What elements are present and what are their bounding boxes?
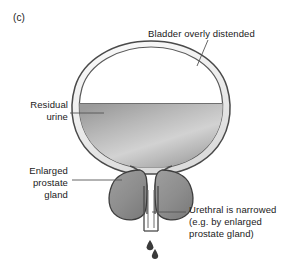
label-bladder-overly-distended: Bladder overly distended <box>148 28 255 40</box>
prostate-lobe-left <box>109 170 147 220</box>
label-urethral-is-narrowed: Urethral is narrowed (e.g. by enlarged p… <box>189 204 301 241</box>
label-residual-urine: Residual urine <box>8 99 68 123</box>
label-enlarged-prostate-gland: Enlarged prostate gland <box>4 165 68 202</box>
urine-drip-upper <box>147 240 154 250</box>
residual-urine-fill <box>70 103 235 175</box>
panel-label: (c) <box>13 12 25 24</box>
figure-panel-c: (c) Bladder overly distended Residual ur… <box>0 0 302 267</box>
urine-drip-lower <box>152 249 158 259</box>
